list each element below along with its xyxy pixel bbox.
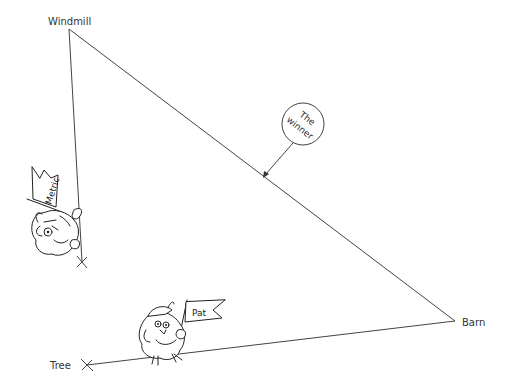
winner-callout: The winner — [263, 103, 324, 178]
pat-flag-text: Pat — [192, 308, 207, 318]
metric-body — [32, 210, 79, 255]
tree-label: Tree — [49, 360, 71, 371]
windmill-label: Windmill — [48, 16, 91, 27]
metric-character: Metric — [27, 167, 82, 255]
pat-character: Pat — [139, 300, 225, 365]
diagram-canvas: Windmill Barn Tree The winner Metric — [0, 0, 507, 391]
route-diagram: Windmill Barn Tree The winner Metric — [0, 0, 507, 391]
windmill-barn-line — [69, 29, 455, 321]
barn-label: Barn — [462, 317, 485, 328]
callout-arrow — [265, 143, 293, 175]
